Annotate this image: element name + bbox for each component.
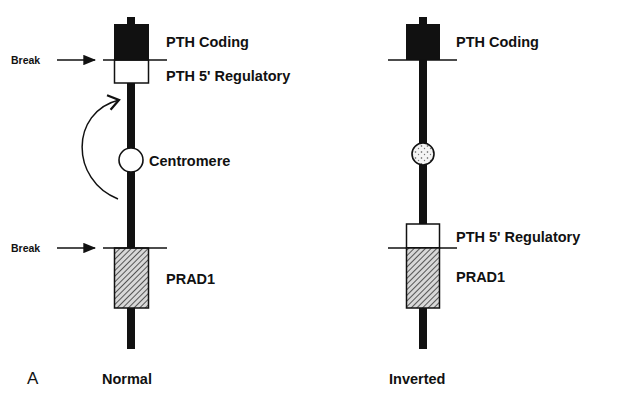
prad1-label: PRAD1 xyxy=(456,269,505,285)
pth-regulatory-label: PTH 5' Regulatory xyxy=(456,229,580,245)
chromosome-inversion-diagram: Break Break PTH Coding PTH 5' Regulatory… xyxy=(0,0,619,402)
centromere-label: Centromere xyxy=(149,153,230,169)
break-label-bottom: Break xyxy=(11,242,40,254)
prad1-block xyxy=(115,248,149,308)
pth-coding-label: PTH Coding xyxy=(166,34,249,50)
normal-chromosome: Break Break PTH Coding PTH 5' Regulatory… xyxy=(11,17,290,349)
pth-coding-block xyxy=(114,24,149,60)
panel-letter: A xyxy=(27,369,39,388)
pth-regulatory-label: PTH 5' Regulatory xyxy=(166,68,290,84)
pth-coding-label: PTH Coding xyxy=(456,34,539,50)
prad1-block xyxy=(407,248,440,308)
inverted-chromosome: PTH Coding PTH 5' Regulatory PRAD1 xyxy=(388,17,580,349)
pth-regulatory-block xyxy=(115,60,149,83)
inversion-arrow-icon xyxy=(82,100,119,199)
break-label-top: Break xyxy=(11,54,40,66)
pth-coding-block xyxy=(406,24,440,60)
centromere-circle xyxy=(412,143,434,165)
pth-regulatory-block xyxy=(407,224,440,248)
normal-caption: Normal xyxy=(102,371,152,387)
prad1-label: PRAD1 xyxy=(166,271,215,287)
centromere-circle xyxy=(119,148,143,172)
inverted-caption: Inverted xyxy=(389,371,445,387)
